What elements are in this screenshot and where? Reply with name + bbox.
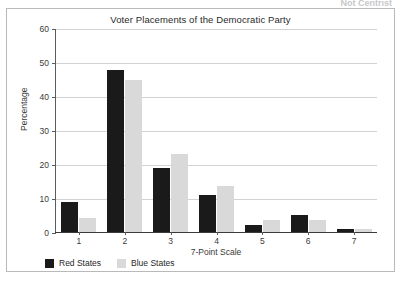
x-tick-label: 1 <box>77 236 82 246</box>
legend-label: Blue States <box>131 258 174 268</box>
y-tick-label: 60 <box>40 24 49 34</box>
figure-frame: Voter Placements of the Democratic Party… <box>6 8 395 272</box>
chart-title: Voter Placements of the Democratic Party <box>7 14 394 25</box>
bar-group: 4 <box>194 29 240 232</box>
bar-blue-states-6 <box>309 220 326 232</box>
chart-legend: Red StatesBlue States <box>45 258 175 268</box>
y-tick-label: 40 <box>40 92 49 102</box>
y-tick-label: 20 <box>40 160 49 170</box>
bar-group: 3 <box>148 29 194 232</box>
legend-item-blue-states: Blue States <box>117 258 174 268</box>
x-tick-mark <box>262 232 263 235</box>
scan-edge-text: Not Centrist <box>0 0 402 6</box>
y-axis-label: Percentage <box>19 88 29 131</box>
bar-group: 2 <box>102 29 148 232</box>
legend-label: Red States <box>59 258 101 268</box>
bar-red-states-7 <box>337 229 354 232</box>
plot-area: 0102030405060 1234567 <box>55 29 377 233</box>
x-tick-label: 5 <box>260 236 265 246</box>
bars-layer: 1234567 <box>56 29 377 232</box>
legend-swatch-icon <box>45 259 54 268</box>
x-tick-label: 2 <box>122 236 127 246</box>
x-tick-mark <box>79 232 80 235</box>
x-tick-mark <box>354 232 355 235</box>
y-tick-label: 50 <box>40 58 49 68</box>
x-tick-mark <box>308 232 309 235</box>
bar-red-states-3 <box>153 168 170 232</box>
x-tick-label: 4 <box>214 236 219 246</box>
x-tick-label: 7 <box>352 236 357 246</box>
legend-item-red-states: Red States <box>45 258 101 268</box>
bar-red-states-5 <box>245 225 262 232</box>
x-axis-label: 7-Point Scale <box>55 247 377 257</box>
bar-blue-states-4 <box>217 186 234 232</box>
y-tick-label: 0 <box>44 228 49 238</box>
bar-blue-states-7 <box>355 229 372 232</box>
bar-blue-states-5 <box>263 220 280 232</box>
bar-blue-states-2 <box>125 80 142 232</box>
x-tick-mark <box>171 232 172 235</box>
bar-group: 1 <box>56 29 102 232</box>
x-tick-label: 6 <box>306 236 311 246</box>
y-tick-label: 10 <box>40 194 49 204</box>
bar-group: 5 <box>239 29 285 232</box>
bar-red-states-4 <box>199 195 216 232</box>
y-tick-mark <box>52 233 56 234</box>
legend-swatch-icon <box>117 259 126 268</box>
bar-red-states-1 <box>61 202 78 232</box>
bar-group: 6 <box>285 29 331 232</box>
x-tick-mark <box>125 232 126 235</box>
bar-blue-states-1 <box>79 218 96 232</box>
x-tick-label: 3 <box>168 236 173 246</box>
y-tick-label: 30 <box>40 126 49 136</box>
bar-blue-states-3 <box>171 154 188 232</box>
bar-red-states-6 <box>291 215 308 232</box>
bar-group: 7 <box>331 29 377 232</box>
x-tick-mark <box>217 232 218 235</box>
bar-red-states-2 <box>107 70 124 232</box>
